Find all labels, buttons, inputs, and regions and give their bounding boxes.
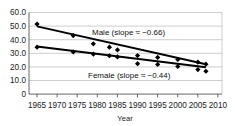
xtick-label-1985: 1985 [108,101,127,110]
data-point [155,55,160,60]
xtick-label-2005: 2005 [189,101,208,110]
data-point [34,45,39,50]
data-point [115,47,120,52]
ytick-label-0: 0 [21,90,26,99]
xtick-label-2000: 2000 [169,101,188,110]
chart-container: 60.0 50.0 40.0 30.0 20.0 10.0 0 1965 197… [0,0,235,126]
data-point [107,53,112,58]
data-point [135,61,140,66]
xtick-label-1990: 1990 [128,101,147,110]
xtick-label-1975: 1975 [68,101,87,110]
xtick-label-1995: 1995 [148,101,167,110]
gridlines [29,13,222,95]
data-point [195,67,200,72]
data-point [91,41,96,46]
trendline-female [37,47,206,68]
data-point [203,69,208,74]
ytick-label-60: 60.0 [10,8,26,17]
x-axis [29,94,222,97]
data-point [135,53,140,58]
xtick-label-1965: 1965 [28,101,47,110]
ytick-label-10: 10.0 [10,76,26,85]
x-axis-title: Year [117,114,133,123]
ytick-label-40: 40.0 [10,36,26,45]
ytick-label-20: 20.0 [10,63,26,72]
x-tick-labels: 1965 1970 1975 1980 1985 1990 1995 2000 … [28,101,228,110]
ytick-label-30: 30.0 [10,49,26,58]
line-chart: 60.0 50.0 40.0 30.0 20.0 10.0 0 1965 197… [0,0,235,126]
xtick-label-1970: 1970 [48,101,67,110]
data-point [155,62,160,67]
xtick-label-2010: 2010 [209,101,228,110]
series-annotation-female: Female (slope ≈ −0.44) [88,71,171,80]
data-point [107,45,112,50]
data-point [195,60,200,65]
series-annotation-male: Male (slope ≈ −0.66) [92,28,165,37]
y-tick-labels: 60.0 50.0 40.0 30.0 20.0 10.0 0 [10,8,26,99]
ytick-label-50: 50.0 [10,22,26,31]
xtick-label-1980: 1980 [88,101,107,110]
